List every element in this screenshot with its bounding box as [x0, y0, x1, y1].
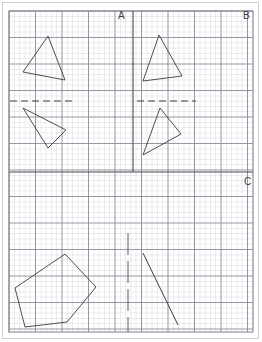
triangle-a-preimage [23, 36, 65, 80]
panel-label-b: B [243, 11, 250, 21]
segment-c [143, 253, 178, 325]
pentagon-c [15, 254, 96, 327]
triangle-b-image [143, 108, 181, 155]
triangle-a-image [23, 108, 66, 148]
grid-and-figures [0, 0, 262, 342]
panel-label-c: C [244, 177, 251, 187]
worksheet-page: A B C [0, 0, 262, 342]
panel-label-a: A [118, 11, 125, 21]
